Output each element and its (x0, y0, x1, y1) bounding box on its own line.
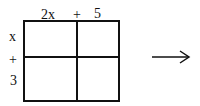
grid-vertical-divider (76, 20, 78, 102)
left-label-x: x (9, 30, 16, 44)
right-arrow-icon (150, 48, 192, 64)
grid-horizontal-divider (23, 56, 120, 58)
left-label-3: 3 (10, 74, 17, 88)
left-label-plus: + (9, 53, 17, 67)
area-grid (23, 20, 120, 102)
top-label-5: 5 (94, 7, 101, 21)
